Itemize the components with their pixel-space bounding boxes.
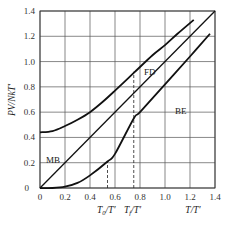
- x-tick-label: 1.4: [209, 192, 221, 202]
- chart: 00.20.40.60.81.01.21.400.20.40.60.81.01.…: [0, 0, 228, 225]
- x-tick-label: 1.0: [159, 192, 171, 202]
- y-tick-label: 0.8: [24, 82, 36, 92]
- x-tick-label: 0: [38, 192, 43, 202]
- tf-label: Tf/T′: [124, 205, 142, 216]
- curves: [40, 11, 215, 188]
- mb-curve: [40, 11, 215, 188]
- y-tick-label: 0.2: [24, 158, 35, 168]
- fd-label: FD: [144, 67, 156, 77]
- x-tick-label: 0.2: [59, 192, 70, 202]
- y-tick-label: 0: [25, 183, 30, 193]
- y-tick-label: 0.4: [24, 132, 36, 142]
- x-tick-label: 0.8: [134, 192, 146, 202]
- be-label: BE: [175, 106, 187, 116]
- y-tick-label: 1.4: [24, 6, 36, 16]
- fd-curve: [40, 20, 194, 133]
- x-tick-label: 0.4: [84, 192, 96, 202]
- y-tick-label: 1.0: [24, 57, 36, 67]
- y-tick-label: 0.6: [24, 107, 36, 117]
- y-tick-label: 1.2: [24, 31, 35, 41]
- x-tick-label: 0.6: [109, 192, 121, 202]
- t0-label: T0/T′: [97, 205, 116, 216]
- y-axis-label: PV/NkT′: [7, 83, 17, 117]
- x-axis-label: T/T′: [185, 205, 201, 215]
- x-tick-label: 1.2: [184, 192, 195, 202]
- mb-label: MB: [46, 155, 60, 165]
- dashed-markers: [108, 72, 134, 188]
